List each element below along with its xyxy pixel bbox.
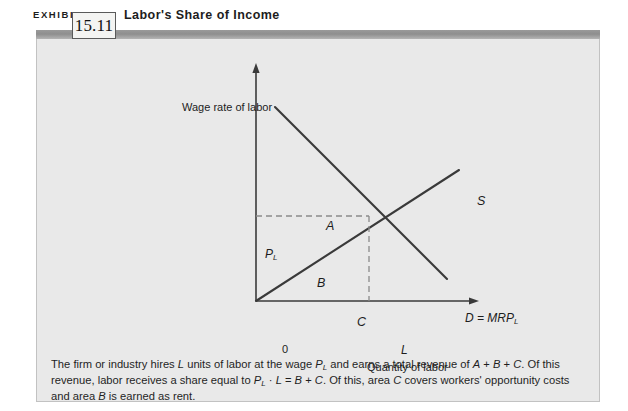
- caption-var-C-2: C: [315, 374, 323, 386]
- equilibrium-wage-label: PL: [265, 247, 277, 261]
- exhibit-number-box: 15.11: [72, 12, 116, 39]
- exhibit-figure: EXHIBIT 15.11 Labor's Share of Income: [0, 0, 628, 411]
- caption-var-P-1-sub: L: [323, 363, 327, 372]
- caption-seg-1: The firm or industry hires: [51, 358, 178, 370]
- demand-curve-label-text: D = MRP: [465, 311, 514, 325]
- x-axis: [256, 297, 479, 304]
- chart-figure: Wage rate of labor Quantity of labor A B…: [37, 39, 599, 339]
- y-axis: [252, 63, 259, 301]
- caption-op-plus-3: +: [302, 374, 315, 386]
- demand-curve: [275, 107, 447, 279]
- y-axis-label: Wage rate of labor: [182, 101, 272, 113]
- demand-curve-label: D = MRPL: [465, 311, 518, 325]
- caption-var-B-3: B: [98, 390, 105, 402]
- caption-seg-3: and earns a total revenue of: [327, 358, 473, 370]
- exhibit-title: Labor's Share of Income: [124, 8, 280, 22]
- equilibrium-wage-label-text: P: [265, 247, 273, 261]
- caption-var-P-1: P: [315, 358, 322, 370]
- exhibit-caption: The firm or industry hires L units of la…: [51, 357, 587, 405]
- caption-seg-7: is earned as rent.: [106, 390, 196, 402]
- header-rule-bar: [36, 30, 600, 39]
- labor-market-diagram: [37, 39, 599, 339]
- supply-curve-label: S: [477, 194, 485, 208]
- region-label-a: A: [326, 219, 334, 233]
- demand-curve-label-subscript: L: [514, 317, 518, 326]
- equilibrium-quantity-label: L: [401, 343, 408, 357]
- caption-var-P-2-sub: L: [261, 379, 265, 388]
- caption-op-plus-2: +: [500, 358, 513, 370]
- region-label-b: B: [317, 276, 325, 290]
- exhibit-panel: Wage rate of labor Quantity of labor A B…: [36, 39, 600, 402]
- caption-seg-5: . Of this, area: [323, 374, 393, 386]
- equilibrium-wage-label-subscript: L: [273, 253, 277, 262]
- caption-seg-2: units of labor at the wage: [184, 358, 315, 370]
- caption-var-B-2: B: [295, 374, 302, 386]
- caption-op-eq: =: [282, 374, 295, 386]
- caption-op-plus-1: +: [480, 358, 493, 370]
- origin-label: 0: [282, 343, 288, 355]
- caption-op-dot: ·: [266, 374, 276, 386]
- region-label-c: C: [357, 315, 366, 329]
